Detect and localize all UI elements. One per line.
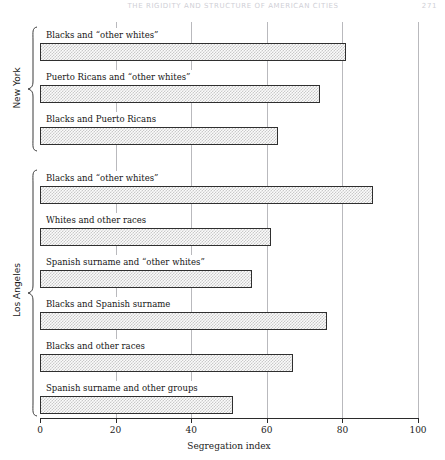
bar-la-0 — [40, 186, 373, 204]
segregation-index-bar-chart: New York Blacks and “other whites” Puert… — [0, 14, 445, 460]
x-tick-80 — [342, 418, 343, 423]
x-axis-line — [40, 418, 419, 419]
x-tick-label-20: 20 — [110, 425, 121, 435]
x-tick-60 — [267, 418, 268, 423]
gridline-100 — [418, 22, 419, 418]
x-tick-20 — [116, 418, 117, 423]
bar-ny-2 — [40, 127, 278, 145]
x-tick-label-100: 100 — [409, 425, 426, 435]
bar-la-5 — [40, 396, 233, 414]
bar-la-2 — [40, 270, 252, 288]
bar-label-ny-2: Blacks and Puerto Ricans — [41, 112, 162, 127]
running-head-text: THE RIGIDITY AND STRUCTURE OF AMERICAN C… — [88, 2, 378, 10]
group-brace-new-york — [27, 26, 38, 152]
bar-label-la-3: Blacks and Spanish surname — [41, 297, 176, 312]
x-tick-0 — [40, 418, 41, 423]
x-tick-label-0: 0 — [37, 425, 43, 435]
x-tick-100 — [418, 418, 419, 423]
gridline-80 — [342, 22, 343, 418]
bar-label-la-2: Spanish surname and “other whites” — [41, 255, 211, 270]
group-brace-los-angeles — [27, 169, 38, 417]
bar-label-ny-1: Puerto Ricans and “other whites” — [41, 70, 196, 85]
bar-ny-0 — [40, 43, 346, 61]
bar-la-3 — [40, 312, 327, 330]
group-label-los-angeles: Los Angeles — [12, 260, 22, 320]
bar-label-ny-0: Blacks and “other whites” — [41, 28, 164, 43]
bar-la-4 — [40, 354, 293, 372]
group-label-new-york: New York — [12, 58, 22, 118]
bar-label-la-4: Blacks and other races — [41, 339, 151, 354]
bar-label-la-1: Whites and other races — [41, 213, 152, 228]
x-tick-label-40: 40 — [185, 425, 196, 435]
page-running-header: THE RIGIDITY AND STRUCTURE OF AMERICAN C… — [0, 0, 445, 14]
page-number: 271 — [422, 2, 437, 10]
x-axis-title: Segregation index — [40, 441, 418, 451]
bar-la-1 — [40, 228, 271, 246]
x-tick-40 — [191, 418, 192, 423]
x-tick-label-60: 60 — [261, 425, 272, 435]
bar-ny-1 — [40, 85, 320, 103]
bar-label-la-0: Blacks and “other whites” — [41, 171, 164, 186]
bar-label-la-5: Spanish surname and other groups — [41, 381, 204, 396]
x-tick-label-80: 80 — [337, 425, 348, 435]
